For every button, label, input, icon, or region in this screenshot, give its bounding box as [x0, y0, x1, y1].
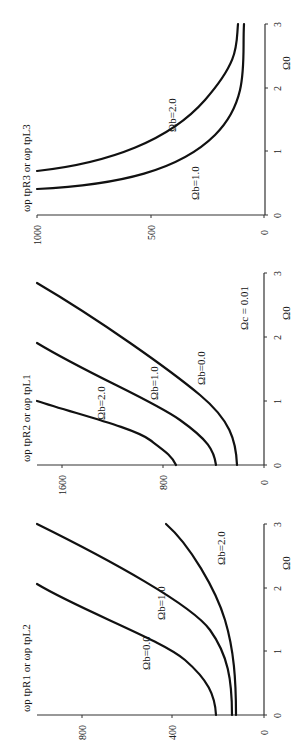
- curve-label: Ωb=1.0: [148, 366, 160, 400]
- y-tick: 500: [146, 225, 157, 240]
- x-tick: 2: [272, 335, 283, 340]
- y-tick: 800: [77, 725, 88, 740]
- curve-label: Ωb=1.0: [189, 166, 201, 200]
- curve-omega-b-1: [37, 24, 244, 189]
- y-tick: 800: [158, 475, 169, 490]
- curve-label: Ωb=2.0: [166, 98, 178, 132]
- x-tick: 0: [272, 713, 283, 718]
- y-tick: 0: [259, 730, 270, 735]
- figure: 0 1 2 3 Ω0 0 500 1000 ωp tpR3 or ωp tpL3…: [0, 0, 308, 750]
- x-tick: 2: [272, 86, 283, 91]
- curve-label: Ωb=2.0: [95, 386, 107, 420]
- curve-label: Ωb=0.0: [195, 351, 207, 385]
- curve-omega-b-0: [37, 584, 216, 715]
- y-axis-label: ωp tpR1 or ωp tpL2: [20, 624, 32, 712]
- x-tick: 3: [272, 22, 283, 27]
- curve-omega-b-1: [37, 524, 232, 715]
- curve-omega-b-0: [37, 283, 237, 465]
- x-axis-label: Ω0: [280, 556, 292, 570]
- y-tick: 1000: [32, 225, 43, 245]
- x-tick: 0: [272, 463, 283, 468]
- y-axis-label: ωp tpR2 or ωp tpL1: [20, 374, 32, 462]
- x-tick: 3: [272, 271, 283, 276]
- curve-omega-b-1: [37, 343, 216, 465]
- curve-label: Ωb=0.0: [140, 636, 152, 670]
- x-tick: 2: [272, 586, 283, 591]
- x-axis-label: Ω0: [280, 306, 292, 320]
- x-tick: 1: [272, 149, 283, 154]
- x-tick: 1: [272, 649, 283, 654]
- y-tick: 400: [167, 725, 178, 740]
- y-tick: 0: [259, 230, 270, 235]
- panel-top: 0 1 2 3 Ω0 0 500 1000 ωp tpR3 or ωp tpL3…: [20, 22, 292, 245]
- panel-middle: 0 1 2 3 Ω0 0 800 1600 ωp tpR2 or ωp tpL1…: [20, 271, 292, 495]
- x-tick: 0: [272, 213, 283, 218]
- x-tick: 1: [272, 399, 283, 404]
- x-tick: 3: [272, 522, 283, 527]
- y-axis-label: ωp tpR3 or ωp tpL3: [20, 124, 32, 212]
- curve-label: Ωb=2.0: [215, 531, 227, 565]
- y-tick: 1600: [57, 475, 68, 495]
- curve-omega-b-2: [37, 24, 238, 171]
- parameter-note: Ωc = 0.01: [238, 286, 250, 330]
- panel-bottom: 0 1 2 3 Ω0 0 400 800 ωp tpR1 or ωp tpL2 …: [20, 522, 292, 740]
- x-axis-label: Ω0: [280, 56, 292, 70]
- y-tick: 0: [259, 480, 270, 485]
